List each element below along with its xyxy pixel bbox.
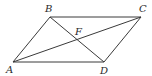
label-c: C — [139, 3, 147, 14]
label-d: D — [99, 65, 108, 76]
parallelogram-figure: A B C D F — [0, 0, 152, 76]
label-f: F — [74, 26, 83, 37]
label-b: B — [44, 3, 52, 14]
label-a: A — [5, 64, 13, 75]
diagonal-bd — [50, 17, 104, 62]
